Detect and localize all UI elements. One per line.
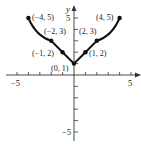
y-tick-label-neg5: −5 <box>62 127 71 137</box>
point-m1-2 <box>60 50 64 54</box>
label-2-3: (2, 3) <box>79 27 97 36</box>
label-m4-5: (−4, 5) <box>32 13 54 22</box>
point-1-2 <box>83 50 87 54</box>
label-m1-2: (−1, 2) <box>32 49 54 58</box>
x-tick-label-pos5: 5 <box>128 78 132 88</box>
point-0-1 <box>72 61 76 65</box>
x-tick-label-neg5: −5 <box>11 78 20 88</box>
y-axis-arrow-icon <box>72 5 77 11</box>
label-1-2: (1, 2) <box>89 49 107 58</box>
label-0-1: (0, 1) <box>51 64 69 73</box>
y-tick-label-pos5: 5 <box>66 13 70 23</box>
point-2-3 <box>95 39 99 43</box>
graph: −5 5 y 5 −5 <box>0 0 141 144</box>
x-axis-arrow-icon <box>135 73 141 78</box>
point-m2-3 <box>49 39 53 43</box>
point-m4-5 <box>26 16 30 20</box>
point-4-5 <box>117 16 121 20</box>
label-4-5: (4, 5) <box>96 13 114 22</box>
x-axis: −5 5 <box>6 72 141 88</box>
label-m2-3: (−2, 3) <box>44 27 66 36</box>
